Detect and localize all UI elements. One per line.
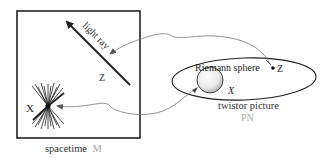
spacetime-x-label: X [26,102,34,114]
sphere-x-label: X [227,85,235,96]
light-ray-label: light ray [81,20,113,52]
twistor-symbol: PN [241,112,254,123]
ray-z-label: Z [99,72,105,83]
spacetime-caption: spacetime M [45,143,103,154]
twistor-correspondence-diagram: light ray Z [0,0,332,158]
twistor-z-label: Z [277,63,283,74]
spacetime-panel: light ray Z [17,11,140,138]
connector-sphere-to-x [57,89,195,115]
twistor-panel: Riemann sphere Z X twistor picture PN [171,56,316,123]
spacetime-label: spacetime [45,143,87,154]
spacetime-box [17,11,140,138]
connector-z-to-light-ray [110,34,270,64]
connector-sphere-arrowhead [192,87,198,93]
twistor-z-point [271,66,275,70]
riemann-sphere-label: Riemann sphere [195,62,260,73]
spacetime-symbol: M [93,143,103,154]
twistor-caption: twistor picture [218,100,279,111]
